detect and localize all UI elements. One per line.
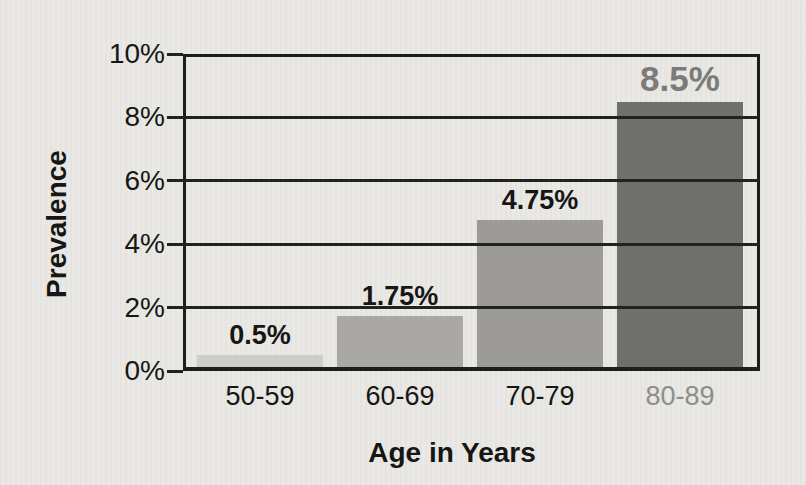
- y-tick-label: 10%: [45, 40, 165, 68]
- y-tick-label: 2%: [45, 294, 165, 322]
- bar-value-label: 1.75%: [362, 283, 439, 310]
- bar: [337, 316, 463, 371]
- bar-value-label: 0.5%: [229, 322, 291, 349]
- y-axis-tick-mark: [167, 53, 183, 56]
- bar: [617, 102, 743, 371]
- y-tick-label: 4%: [45, 230, 165, 258]
- bar: [477, 220, 603, 371]
- y-axis-tick-mark: [167, 179, 183, 182]
- y-axis-tick-mark: [167, 306, 183, 309]
- x-category-label: 60-69: [365, 383, 434, 410]
- x-category-label: 50-59: [225, 383, 294, 410]
- x-category-label: 70-79: [505, 383, 574, 410]
- chart-canvas: Prevalence 0.5%1.75%4.75%8.5% Age in Yea…: [0, 0, 806, 485]
- bar-value-label: 8.5%: [640, 61, 720, 96]
- y-tick-label: 0%: [45, 357, 165, 385]
- y-axis-tick-mark: [167, 370, 183, 373]
- plot-area: 0.5%1.75%4.75%8.5%: [183, 54, 760, 371]
- y-tick-label: 8%: [45, 103, 165, 131]
- x-axis-title: Age in Years: [368, 437, 536, 469]
- bar: [197, 355, 323, 371]
- x-category-label: 80-89: [645, 383, 714, 410]
- y-axis-tick-mark: [167, 243, 183, 246]
- y-axis-tick-mark: [167, 116, 183, 119]
- bar-value-label: 4.75%: [502, 187, 579, 214]
- y-tick-label: 6%: [45, 167, 165, 195]
